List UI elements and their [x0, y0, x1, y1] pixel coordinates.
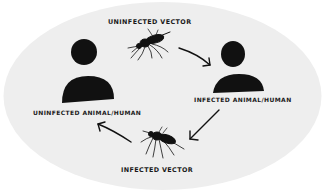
uninfected-host-label: UNINFECTED ANIMAL/HUMAN	[33, 110, 141, 116]
infected-vector-label: INFECTED VECTOR	[121, 167, 193, 173]
infected-host-label: INFECTED ANIMAL/HUMAN	[194, 97, 292, 103]
transmission-cycle-diagram: UNINFECTED VECTOR INFECTED ANIMAL/HUMAN …	[0, 0, 325, 195]
uninfected-vector-label: UNINFECTED VECTOR	[108, 19, 191, 25]
